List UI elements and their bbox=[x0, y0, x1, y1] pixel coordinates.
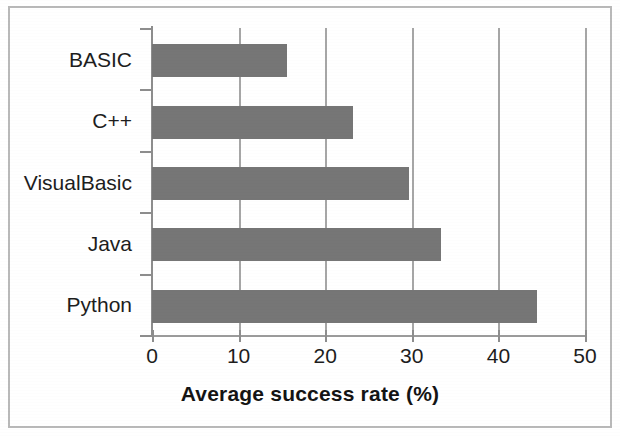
y-axis-category-labels: BASICC++VisualBasicJavaPython bbox=[0, 0, 140, 436]
x-tick-label: 50 bbox=[555, 344, 615, 368]
x-tick-label: 30 bbox=[382, 344, 442, 368]
y-tick-5 bbox=[140, 335, 152, 337]
y-tick-2 bbox=[140, 151, 152, 153]
x-tick-50 bbox=[585, 330, 587, 342]
x-axis-title: Average success rate (%) bbox=[0, 382, 620, 406]
category-label-cpp: C++ bbox=[92, 109, 132, 133]
bar-python bbox=[152, 290, 537, 323]
bar-basic bbox=[152, 44, 287, 77]
x-tick-30 bbox=[412, 330, 414, 342]
bar-cpp bbox=[152, 106, 353, 139]
bar-chart-figure: BASICC++VisualBasicJavaPython 0102030405… bbox=[0, 0, 620, 436]
category-label-visualbasic: VisualBasic bbox=[24, 171, 132, 195]
y-tick-4 bbox=[140, 274, 152, 276]
gridline-40 bbox=[498, 28, 500, 335]
category-label-basic: BASIC bbox=[69, 48, 132, 72]
category-label-python: Python bbox=[67, 293, 132, 317]
category-label-java: Java bbox=[88, 232, 132, 256]
x-tick-20 bbox=[325, 330, 327, 342]
x-axis-line bbox=[151, 335, 587, 337]
x-tick-label: 10 bbox=[209, 344, 269, 368]
y-tick-1 bbox=[140, 89, 152, 91]
bar-java bbox=[152, 228, 441, 261]
gridline-30 bbox=[412, 28, 414, 335]
x-tick-label: 40 bbox=[468, 344, 528, 368]
x-tick-40 bbox=[498, 330, 500, 342]
bar-visualbasic bbox=[152, 167, 409, 200]
x-tick-0 bbox=[152, 330, 154, 342]
x-tick-10 bbox=[239, 330, 241, 342]
y-tick-0 bbox=[140, 28, 152, 30]
y-tick-3 bbox=[140, 212, 152, 214]
x-tick-label: 0 bbox=[122, 344, 182, 368]
gridline-50 bbox=[585, 28, 587, 335]
x-tick-label: 20 bbox=[295, 344, 355, 368]
